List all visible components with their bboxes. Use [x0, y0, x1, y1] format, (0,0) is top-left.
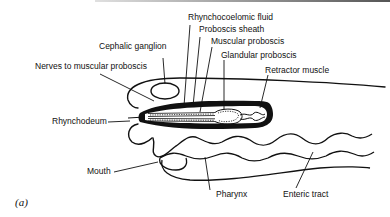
body-ventral-outline: [162, 160, 370, 180]
label-nerves-to-muscular-proboscis: Nerves to muscular proboscis: [35, 62, 147, 71]
diagram-canvas: Rhynchocoelomic fluid Proboscis sheath M…: [0, 0, 390, 217]
label-glandular-proboscis: Glandular proboscis: [221, 51, 297, 60]
label-enteric-tract: Enteric tract: [283, 190, 328, 199]
label-muscular-proboscis: Muscular proboscis: [211, 37, 284, 46]
enteric-upper-wall: [176, 133, 372, 146]
proboscis-sheath-shape: [139, 101, 274, 129]
anatomy-drawing: [0, 0, 390, 217]
head-lower-lobe: [129, 124, 152, 144]
label-rhynchocoelomic-fluid: Rhynchocoelomic fluid: [188, 13, 273, 22]
label-cephalic-ganglion: Cephalic ganglion: [99, 42, 167, 51]
enteric-lower-wall: [160, 151, 374, 161]
label-retractor-muscle: Retractor muscle: [265, 66, 329, 75]
label-proboscis-sheath: Proboscis sheath: [199, 25, 264, 34]
panel-label: (a): [15, 196, 28, 208]
cephalic-ganglion-shape: [151, 83, 179, 99]
label-mouth: Mouth: [87, 167, 111, 176]
label-pharynx: Pharynx: [216, 190, 247, 199]
label-rhynchodeum: Rhynchodeum: [52, 117, 107, 126]
